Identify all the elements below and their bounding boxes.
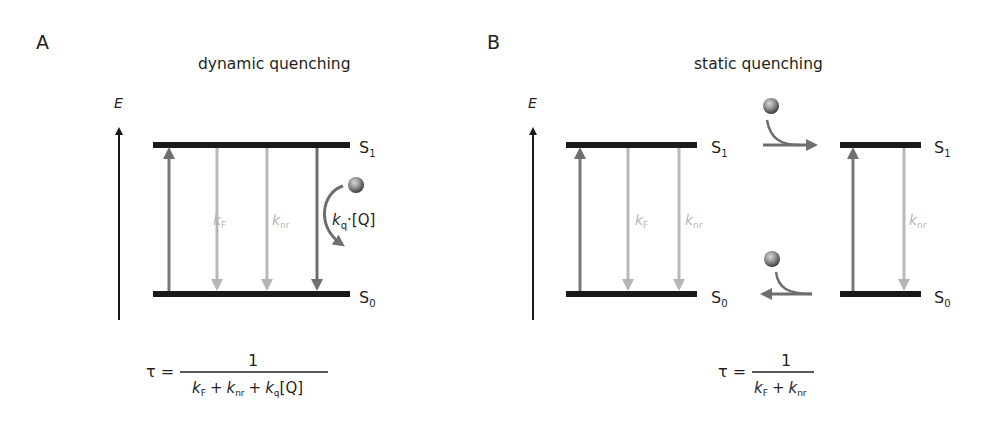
equation-numerator-b: 1 [781, 351, 791, 370]
panel-label-a: A [36, 31, 49, 53]
binding-curve [767, 120, 800, 145]
lifetime-equation-a: τ = 1 kF+knr+kq[Q] [146, 351, 328, 398]
level-s1-label-b-complex: S1 [934, 138, 951, 159]
rate-knr-a: knr [272, 212, 290, 230]
quenching-diagram: A dynamic quenching E S1 S0 kF knr kq·[Q… [0, 0, 985, 421]
level-s0-a [153, 291, 350, 297]
level-s0-label-b-complex: S0 [934, 288, 951, 309]
level-s0-b-free [566, 291, 697, 297]
panel-title-b: static quenching [694, 55, 823, 73]
quencher-molecule-release [764, 251, 780, 267]
level-s0-b-complex [840, 291, 921, 297]
level-s1-b-complex [840, 142, 921, 148]
rate-kq-a: kq·[Q] [332, 211, 375, 231]
level-s1-b-free [566, 142, 697, 148]
lifetime-equation-b: τ = 1 kF+knr [718, 351, 814, 398]
rate-knr-b-complex: knr [909, 212, 927, 230]
level-s1-label-a: S1 [359, 138, 376, 159]
level-s0-label-a: S0 [359, 288, 376, 309]
rate-kf-a: kF [213, 212, 226, 230]
equation-lhs-a: τ = [146, 362, 174, 381]
equation-lhs-b: τ = [718, 362, 746, 381]
quencher-molecule-bind [763, 98, 779, 114]
panel-label-b: B [487, 31, 500, 53]
release-curve [776, 272, 812, 294]
energy-axis-label-b: E [528, 95, 537, 111]
rate-kf-b: kF [635, 212, 648, 230]
panel-a: A dynamic quenching E S1 S0 kF knr kq·[Q… [36, 31, 376, 398]
quencher-molecule-a [348, 177, 364, 193]
level-s1-a [153, 142, 350, 148]
level-s1-label-b-free: S1 [711, 138, 728, 159]
equation-numerator-a: 1 [248, 351, 258, 370]
rate-knr-b-free: knr [685, 212, 703, 230]
equation-denominator-b: kF+knr [754, 379, 807, 398]
panel-b: B static quenching E S1 S0 kF knr S1 S0 … [487, 31, 951, 398]
equation-denominator-a: kF+knr+kq[Q] [192, 379, 303, 398]
panel-title-a: dynamic quenching [198, 55, 351, 73]
level-s0-label-b-free: S0 [711, 288, 728, 309]
energy-axis-label-a: E [114, 95, 123, 111]
